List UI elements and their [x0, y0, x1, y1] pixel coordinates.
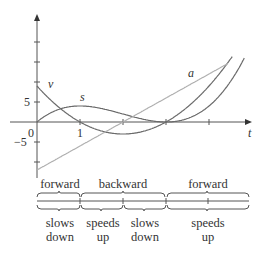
chart-root: 0 1 5 −5 t v s a forward backward forwar… — [0, 0, 268, 253]
brace-backward — [81, 191, 165, 197]
curves — [37, 57, 244, 170]
axes — [10, 19, 249, 178]
brace-speeds-2 — [167, 205, 249, 211]
y-tick-label-5: 5 — [24, 95, 30, 109]
axis-ticks — [34, 42, 209, 162]
origin-label: 0 — [28, 126, 34, 140]
speed-speeds-up-2: speedsup — [188, 216, 228, 244]
v-curve-label: v — [48, 77, 54, 91]
brace-forward-2 — [167, 191, 249, 197]
direction-forward-2: forward — [180, 177, 236, 191]
speed-slows-down-1: slowsdown — [42, 216, 78, 244]
t-axis-label: t — [248, 126, 252, 140]
speed-speeds-up-1: speedsup — [83, 216, 123, 244]
brace-speeds-1 — [81, 205, 123, 211]
interval-braces — [37, 191, 249, 211]
s-curve-label: s — [80, 90, 85, 104]
x-axis-arrow-icon — [245, 119, 252, 125]
direction-backward: backward — [95, 177, 151, 191]
a-curve — [37, 63, 228, 170]
brace-slows-1 — [37, 205, 80, 211]
direction-forward-1: forward — [40, 177, 80, 191]
x-tick-label-1: 1 — [77, 126, 83, 140]
y-tick-label-neg5: −5 — [14, 135, 27, 149]
speed-slows-down-2: slowsdown — [127, 216, 163, 244]
y-axis-arrow-icon — [34, 14, 40, 21]
brace-slows-2 — [124, 205, 166, 211]
brace-forward-1 — [37, 191, 80, 197]
a-curve-label: a — [188, 66, 194, 80]
